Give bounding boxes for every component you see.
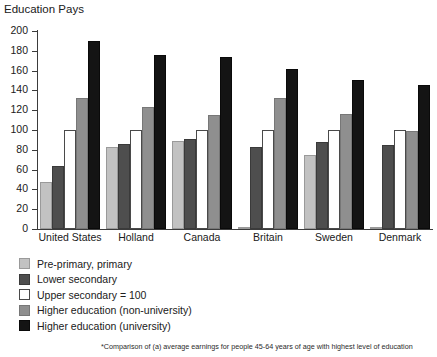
y-axis-tick-label: 140 <box>10 84 32 95</box>
bar <box>352 80 364 229</box>
bar-group: Holland <box>103 31 169 229</box>
bar <box>274 98 286 229</box>
bar <box>142 107 154 229</box>
bar <box>220 57 232 229</box>
x-axis-line <box>37 229 433 230</box>
legend-item: Lower secondary <box>19 272 192 288</box>
bar <box>286 69 298 229</box>
bar <box>340 114 352 229</box>
bar <box>250 147 262 229</box>
legend-swatch <box>19 274 30 285</box>
chart-legend: Pre-primary, primaryLower secondaryUpper… <box>19 256 192 334</box>
bar <box>382 145 394 229</box>
bar <box>238 227 250 229</box>
plot-area: United StatesHollandCanadaBritainSwedenD… <box>37 31 433 229</box>
bar <box>418 85 430 229</box>
bar <box>64 130 76 229</box>
y-axis-tick-label: 180 <box>10 45 32 56</box>
bar <box>196 130 208 229</box>
bar <box>76 98 88 229</box>
y-axis-tick-label: 60 <box>16 164 32 175</box>
chart-footnote: *Comparison of (a) average earnings for … <box>101 342 413 352</box>
bar <box>40 182 52 229</box>
bar <box>154 55 166 229</box>
y-axis-tick-label: 80 <box>16 144 32 155</box>
legend-swatch <box>19 258 30 269</box>
bar <box>316 142 328 229</box>
legend-item: Pre-primary, primary <box>19 256 192 272</box>
bar <box>52 166 64 229</box>
bar-group: United States <box>37 31 103 229</box>
legend-label: Higher education (non-university) <box>37 304 192 316</box>
x-axis-group-label: United States <box>37 231 103 244</box>
bar <box>172 141 184 229</box>
x-axis-group-label: Britain <box>235 231 301 244</box>
y-axis-tick-label: 100 <box>10 124 32 135</box>
bar <box>130 130 142 229</box>
bar <box>88 41 100 229</box>
chart-title: Education Pays <box>4 2 84 16</box>
legend-label: Higher education (university) <box>37 320 171 332</box>
legend-item: Higher education (non-university) <box>19 303 192 319</box>
legend-label: Lower secondary <box>37 273 117 285</box>
bar-group: Britain <box>235 31 301 229</box>
bar-group: Sweden <box>301 31 367 229</box>
legend-item: Upper secondary = 100 <box>19 287 192 303</box>
bar-group: Denmark <box>367 31 433 229</box>
legend-label: Pre-primary, primary <box>37 258 132 270</box>
y-axis-tick-label: 160 <box>10 65 32 76</box>
bar <box>370 227 382 229</box>
y-axis-tick-label: 20 <box>16 203 32 214</box>
y-axis-tick-label: 200 <box>10 25 32 36</box>
y-axis-tick-label: 0 <box>22 223 32 234</box>
legend-swatch <box>19 320 30 331</box>
legend-swatch <box>19 305 30 316</box>
y-axis-tick-label: 40 <box>16 183 32 194</box>
bar <box>394 130 406 229</box>
bar <box>118 144 130 229</box>
legend-item: Higher education (university) <box>19 318 192 334</box>
bar <box>304 155 316 229</box>
bar <box>208 115 220 229</box>
bar <box>106 147 118 229</box>
x-axis-group-label: Canada <box>169 231 235 244</box>
y-axis-tick-label: 120 <box>10 104 32 115</box>
legend-swatch <box>19 289 30 300</box>
bar <box>406 131 418 229</box>
bar-group: Canada <box>169 31 235 229</box>
bar <box>328 130 340 229</box>
x-axis-group-label: Holland <box>103 231 169 244</box>
bar <box>262 130 274 229</box>
x-axis-group-label: Sweden <box>301 231 367 244</box>
bar <box>184 139 196 229</box>
y-axis-tick: 0 <box>32 229 37 230</box>
legend-label: Upper secondary = 100 <box>37 289 146 301</box>
x-axis-group-label: Denmark <box>367 231 433 244</box>
